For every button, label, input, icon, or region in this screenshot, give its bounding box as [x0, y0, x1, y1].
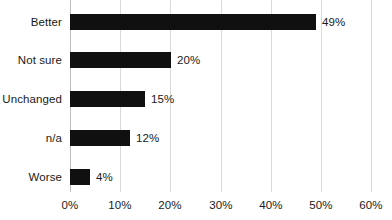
bar-row: Worse 4%: [0, 169, 392, 185]
bar: [70, 130, 130, 146]
value-label: 4%: [96, 169, 113, 185]
value-label: 15%: [151, 91, 174, 107]
x-tick-label: 40%: [249, 198, 293, 212]
value-label: 49%: [322, 14, 345, 30]
bar-row: Not sure 20%: [0, 52, 392, 68]
category-label: Better: [0, 14, 62, 30]
x-tick-label: 0%: [48, 198, 92, 212]
bar: [70, 169, 90, 185]
bar-row: n/a 12%: [0, 130, 392, 146]
value-label: 12%: [136, 130, 159, 146]
bar-row: Better 49%: [0, 14, 392, 30]
x-tick-label: 60%: [349, 198, 392, 212]
bar-chart: Better 49% Not sure 20% Unchanged 15% n/…: [0, 0, 392, 220]
bar: [70, 91, 145, 107]
x-tick-label: 30%: [199, 198, 243, 212]
bar-row: Unchanged 15%: [0, 91, 392, 107]
category-label: Unchanged: [0, 91, 62, 107]
category-label: Worse: [0, 169, 62, 185]
bar: [70, 14, 316, 30]
category-label: n/a: [0, 130, 62, 146]
value-label: 20%: [177, 52, 200, 68]
category-label: Not sure: [0, 52, 62, 68]
x-tick-label: 20%: [148, 198, 192, 212]
x-tick-label: 50%: [299, 198, 343, 212]
bar: [70, 52, 171, 68]
x-tick-label: 10%: [98, 198, 142, 212]
x-axis: 0% 10% 20% 30% 40% 50% 60%: [0, 192, 392, 220]
